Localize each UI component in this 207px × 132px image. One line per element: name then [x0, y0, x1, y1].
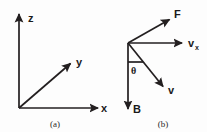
vector-figure: z y x (a) F v x v B [0, 0, 207, 132]
panel-a-caption: (a) [50, 119, 60, 129]
axis-label-z: z [28, 12, 34, 24]
vector-label-v: v [168, 84, 175, 96]
panel-a: z y x (a) [19, 12, 108, 129]
angle-label-theta: θ [131, 65, 136, 76]
vector-label-vx: v [188, 37, 195, 49]
axis-label-y: y [76, 56, 83, 68]
axis-label-x: x [101, 102, 108, 114]
vector-label-F: F [174, 8, 181, 20]
axis-y-arrow [19, 64, 71, 109]
vector-label-B: B [133, 103, 141, 115]
vector-label-vx-group: v x [188, 37, 199, 51]
figure-canvas: z y x (a) F v x v B [0, 0, 207, 132]
vector-F-arrow [128, 20, 170, 44]
vector-label-vx-subscript: x [195, 44, 199, 51]
panel-b: F v x v B θ (b) [128, 8, 199, 129]
panel-b-caption: (b) [158, 119, 169, 129]
